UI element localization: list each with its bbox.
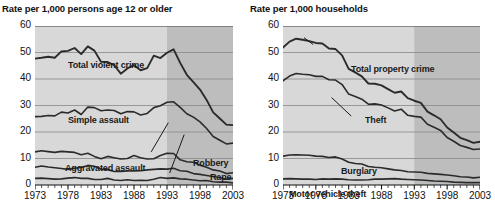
series-label-total-property-crime: Total property crime (351, 64, 434, 74)
y-axis-tick-label-30: 30 (257, 99, 279, 110)
x-axis-tick-label-2003: 2003 (463, 190, 495, 201)
y-axis-tick-label-10: 10 (257, 152, 279, 163)
y-axis-tick-label-0: 0 (257, 178, 279, 189)
series-label-theft: Theft (365, 115, 386, 125)
chart-svg (283, 26, 480, 199)
series-label-simple-assault: Simple assault (68, 115, 129, 125)
series-label-motor-vehicle-theft: Motor vehicle theft (289, 189, 366, 199)
x-axis-tick-label-1993: 1993 (397, 190, 431, 201)
x-axis-tick-label-1998: 1998 (183, 190, 217, 201)
x-axis-tick-label-1998: 1998 (430, 190, 464, 201)
y-axis-tick-label-50: 50 (9, 46, 31, 57)
y-axis-tick-label-20: 20 (9, 125, 31, 136)
y-axis-tick-label-50: 50 (257, 46, 279, 57)
x-axis-tick-label-1978: 1978 (51, 190, 85, 201)
figure-root: Rate per 1,000 persons age 12 or older 0… (0, 0, 495, 214)
y-axis-tick-label-10: 10 (9, 152, 31, 163)
x-axis-tick-label-2003: 2003 (216, 190, 250, 201)
y-axis-tick-label-60: 60 (9, 19, 31, 30)
x-axis-tick-label-1973: 1973 (18, 190, 52, 201)
plot-area-property-crime: 0102030405060197319781983198819931998200… (283, 26, 480, 185)
chart-panel-violent-crime: Rate per 1,000 persons age 12 or older 0… (0, 0, 248, 214)
x-axis-tick-label-1983: 1983 (84, 190, 118, 201)
series-label-aggravated-assault: Aggravated assault (65, 163, 145, 173)
chart-panel-property-crime: Rate per 1,000 households 01020304050601… (248, 0, 495, 214)
x-axis-tick-label-1988: 1988 (117, 190, 151, 201)
plot-area-violent-crime: 0102030405060197319781983198819931998200… (35, 26, 233, 185)
y-axis-tick-label-0: 0 (9, 178, 31, 189)
chart-svg (35, 26, 233, 199)
y-axis-tick-label-30: 30 (9, 99, 31, 110)
x-axis-tick-label-1988: 1988 (365, 190, 399, 201)
series-label-burglary: Burglary (341, 166, 377, 176)
series-label-rape: Rape (210, 172, 231, 182)
series-label-robbery: Robbery (193, 158, 228, 168)
y-axis-tick-label-60: 60 (257, 19, 279, 30)
x-axis-tick-label-1993: 1993 (150, 190, 184, 201)
y-axis-tick-label-40: 40 (9, 72, 31, 83)
page-title-property-crime: Rate per 1,000 households (250, 3, 368, 14)
series-label-total-violent-crime: Total violent crime (68, 60, 144, 70)
y-axis-tick-label-40: 40 (257, 72, 279, 83)
y-axis-tick-label-20: 20 (257, 125, 279, 136)
page-title-violent-crime: Rate per 1,000 persons age 12 or older (2, 3, 172, 14)
